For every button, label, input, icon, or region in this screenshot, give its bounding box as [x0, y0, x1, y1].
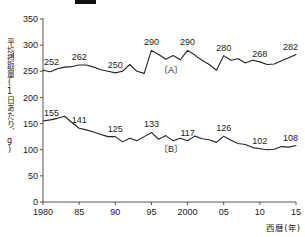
x-tick-label: 05	[219, 207, 229, 217]
data-value-label: 282	[283, 42, 298, 52]
y-tick-label: 150	[23, 119, 38, 129]
y-tick-label: 100	[23, 145, 38, 155]
x-tick-label: 2000	[178, 207, 198, 217]
data-value-label: 133	[144, 119, 159, 129]
data-value-label: 262	[72, 52, 87, 62]
series-label-b: 〔B〕	[159, 144, 183, 154]
data-value-label: 252	[44, 57, 59, 67]
x-axis-ticks: 19808590952000051015	[33, 202, 301, 217]
data-value-label: 141	[72, 115, 87, 125]
data-value-label: 102	[252, 136, 267, 146]
x-tick-label: 85	[74, 207, 84, 217]
line-chart-plot: 050100150200250300350 198085909520000510…	[0, 0, 305, 237]
data-value-label: 155	[44, 108, 59, 118]
y-axis-ticks: 050100150200250300350	[23, 14, 43, 207]
series-label-a: 〔A〕	[159, 65, 183, 75]
x-tick-label: 10	[255, 207, 265, 217]
data-value-label: 268	[252, 49, 267, 59]
data-value-label: 108	[283, 133, 298, 143]
data-value-label: 125	[108, 124, 123, 134]
data-value-label: 280	[216, 43, 231, 53]
data-value-label: 290	[180, 37, 195, 47]
x-tick-label: 95	[146, 207, 156, 217]
x-axis-title: 西暦(年)	[266, 223, 300, 233]
chart-axes	[43, 18, 296, 202]
y-tick-label: 300	[23, 40, 38, 50]
x-tick-label: 15	[291, 207, 301, 217]
y-tick-label: 350	[23, 14, 38, 24]
y-tick-label: 0	[33, 197, 38, 207]
y-tick-label: 50	[28, 171, 38, 181]
y-tick-label: 250	[23, 66, 38, 76]
data-value-label: 250	[108, 60, 123, 70]
data-value-label: 290	[144, 37, 159, 47]
data-value-label: 126	[216, 123, 231, 133]
series-inline-labels: 〔A〕〔B〕	[159, 65, 183, 154]
data-value-label: 117	[180, 128, 194, 138]
chart-container: 平均摂取量(1日あたり、g) 050100150200250300350 198…	[0, 0, 305, 237]
y-tick-label: 200	[23, 93, 38, 103]
x-tick-label: 1980	[33, 207, 53, 217]
x-tick-label: 90	[110, 207, 120, 217]
